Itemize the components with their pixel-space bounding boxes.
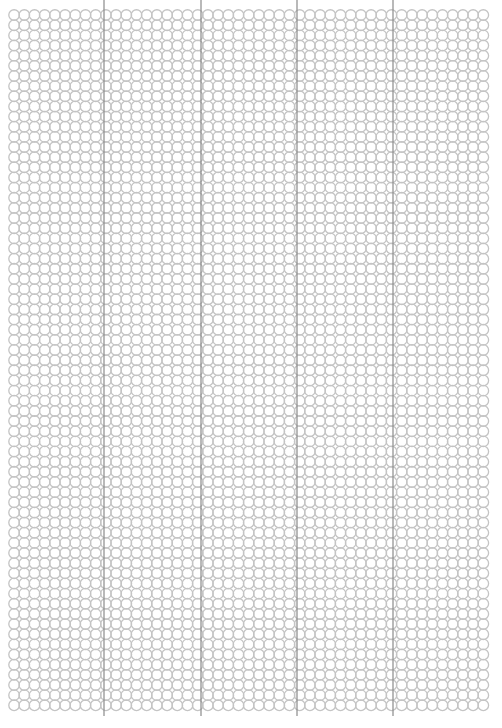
circle-grid-sheet bbox=[0, 0, 502, 728]
circle-grid bbox=[9, 10, 489, 711]
